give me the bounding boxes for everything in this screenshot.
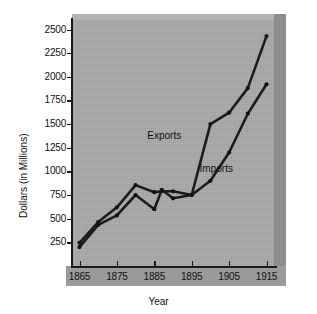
- data-point: [171, 189, 175, 193]
- x-axis-title: Year: [0, 296, 317, 307]
- series-label-imports: Imports: [200, 163, 233, 174]
- series-layer: [0, 0, 317, 314]
- data-point: [264, 34, 268, 38]
- data-point: [208, 179, 212, 183]
- data-point: [134, 183, 138, 187]
- y-axis-title: Dollars (in Millions): [18, 134, 29, 218]
- data-point: [246, 112, 250, 116]
- data-point: [152, 190, 156, 194]
- data-point: [246, 86, 250, 90]
- data-point: [171, 196, 175, 200]
- data-point: [227, 111, 231, 115]
- data-point: [134, 193, 138, 197]
- chart-figure: 2505007501000125015001750200022502500 18…: [0, 0, 317, 314]
- series-line-imports: [80, 84, 267, 247]
- series-label-exports: Exports: [147, 130, 181, 141]
- data-point: [115, 213, 119, 217]
- data-point: [208, 122, 212, 126]
- data-point: [160, 188, 164, 192]
- data-point: [96, 223, 100, 227]
- data-point: [227, 150, 231, 154]
- data-point: [115, 205, 119, 209]
- data-point: [190, 193, 194, 197]
- data-point: [264, 82, 268, 86]
- data-point: [77, 245, 81, 249]
- data-point: [152, 207, 156, 211]
